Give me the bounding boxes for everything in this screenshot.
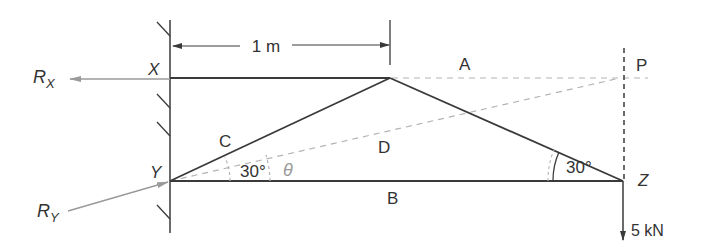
angle-label-30-Y: 30° xyxy=(240,162,266,181)
dashed-line-Y-to-P xyxy=(170,78,620,181)
angle-label-theta: θ xyxy=(283,160,293,180)
wall-hatch xyxy=(157,205,170,219)
region-label-D: D xyxy=(378,138,390,157)
angle-arcs-Z xyxy=(548,150,559,181)
region-label-B: B xyxy=(387,189,398,208)
arc-30deg-Y xyxy=(225,157,230,181)
angle-label-30-Z: 30° xyxy=(566,158,592,177)
wall-hatch xyxy=(157,94,170,108)
node-label-Z: Z xyxy=(637,171,649,190)
load-label: 5 kN xyxy=(631,222,664,239)
node-label-X: X xyxy=(147,60,160,79)
dimension-label: 1 m xyxy=(252,37,280,56)
reaction-label-RX: RX xyxy=(33,67,56,91)
region-label-C: C xyxy=(219,132,231,151)
wall-support xyxy=(157,20,170,233)
dimension-1m: 1 m xyxy=(173,20,390,65)
node-label-P: P xyxy=(636,56,647,75)
node-label-Y: Y xyxy=(150,163,163,182)
truss-diagram: 1 m 30° θ 30° A B C D X Y Z P RX RY 5 kN xyxy=(0,0,703,251)
reaction-arrow-RY xyxy=(68,182,168,211)
member-Y-apex xyxy=(170,78,390,181)
region-label-A: A xyxy=(459,55,471,74)
wall-hatch xyxy=(157,122,170,136)
wall-hatch xyxy=(157,22,170,36)
reaction-label-RY: RY xyxy=(37,201,60,225)
